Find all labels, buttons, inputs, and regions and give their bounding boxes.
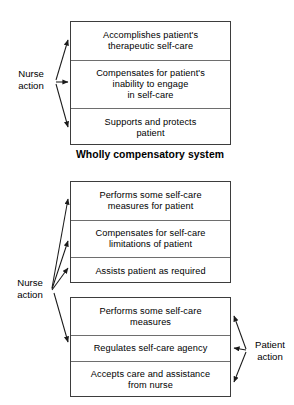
- wholly-compensatory-box-group: Accomplishes patient's therapeutic self-…: [70, 21, 231, 145]
- box-row: Accomplishes patient's therapeutic self-…: [71, 22, 230, 61]
- wholly-compensatory-caption: Wholly compensatory system: [40, 149, 260, 160]
- box-row: Supports and protects patient: [71, 109, 230, 146]
- box-row: Compensates for patient's inability to e…: [71, 61, 230, 109]
- box-row: Regulates self-care agency: [71, 336, 230, 362]
- nurse-action-arrows-bottom: [52, 199, 68, 342]
- partly-compensatory-patient-box-group: Performs some self-care measures Regulat…: [70, 297, 231, 397]
- patient-action-label: Patient action: [248, 339, 292, 362]
- box-row: Performs some self-care measures: [71, 298, 230, 336]
- box-row: Compensates for self-care limitations of…: [71, 221, 230, 258]
- nurse-action-label-top: Nurse action: [8, 68, 54, 91]
- nursing-systems-diagram: Accomplishes patient's therapeutic self-…: [0, 0, 294, 405]
- nurse-action-label-bottom: Nurse action: [6, 277, 54, 300]
- box-row: Assists patient as required: [71, 258, 230, 284]
- nurse-action-arrows-top: [56, 40, 68, 127]
- partly-compensatory-nurse-box-group: Performs some self-care measures for pat…: [70, 181, 231, 283]
- box-row: Performs some self-care measures for pat…: [71, 182, 230, 221]
- patient-action-arrows: [234, 316, 246, 382]
- box-row: Accepts care and assistance from nurse: [71, 362, 230, 398]
